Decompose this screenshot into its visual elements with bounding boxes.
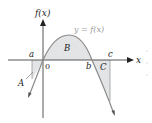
y-axis-arrow-icon	[40, 19, 46, 26]
region-C-label: C	[100, 62, 107, 72]
curve-end-arrow-right-icon	[112, 110, 116, 116]
point-a-label: a	[29, 49, 34, 59]
y-axis-label: f(x)	[34, 8, 51, 18]
edge-mark	[146, 50, 147, 51]
area-under-curve-diagram: f(x) x y = f(x) 0 a b c A B C	[0, 0, 152, 123]
curve-label: y = f(x)	[73, 25, 104, 34]
point-b-label: b	[86, 61, 91, 71]
origin-label: 0	[45, 62, 50, 71]
point-c-label: c	[108, 49, 113, 59]
x-axis-arrow-icon	[127, 57, 134, 63]
edge-mark	[146, 74, 147, 75]
x-axis-label: x	[136, 55, 141, 65]
edge-mark	[146, 62, 147, 63]
region-B-label: B	[63, 43, 70, 53]
curve-end-arrow-left-icon	[28, 92, 32, 98]
region-A-label: A	[17, 78, 24, 88]
